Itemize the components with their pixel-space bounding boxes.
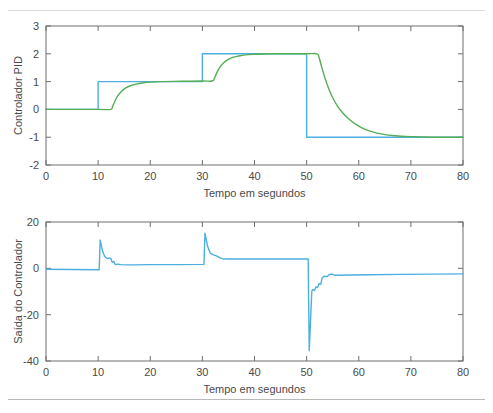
- x-tick-label: 40: [248, 170, 260, 182]
- series-referencia: [46, 54, 463, 137]
- y-tick-label: 0: [33, 262, 39, 274]
- x-tick-label: 20: [144, 366, 156, 378]
- y-axis-title: Controlador PID: [12, 56, 24, 135]
- y-tick-label: -1: [29, 131, 39, 143]
- y-tick-label: 1: [33, 76, 39, 88]
- x-axis-title: Tempo em segundos: [203, 383, 306, 395]
- x-tick-label: 0: [43, 170, 49, 182]
- page-bottom-rule: [8, 399, 485, 400]
- axis-frame: [46, 222, 463, 361]
- x-tick-label: 60: [353, 170, 365, 182]
- x-tick-label: 10: [92, 366, 104, 378]
- x-tick-label: 30: [196, 170, 208, 182]
- y-tick-label: -20: [23, 309, 39, 321]
- y-axis-title: Saída do Controlador: [12, 239, 24, 344]
- axis-frame: [46, 26, 463, 165]
- chart-saida-controlador: 01020304050607080-40-20020Tempo em segun…: [0, 208, 493, 398]
- x-tick-label: 0: [43, 366, 49, 378]
- y-tick-label: 2: [33, 48, 39, 60]
- y-tick-label: -40: [23, 355, 39, 367]
- x-tick-label: 70: [405, 366, 417, 378]
- x-tick-label: 10: [92, 170, 104, 182]
- x-axis-title: Tempo em segundos: [203, 187, 306, 199]
- y-tick-label: -2: [29, 159, 39, 171]
- x-tick-label: 70: [405, 170, 417, 182]
- plot-area-pid: 01020304050607080-2-10123Tempo em segund…: [0, 12, 493, 202]
- y-tick-label: 20: [27, 216, 39, 228]
- x-tick-label: 80: [457, 366, 469, 378]
- x-tick-label: 50: [301, 366, 313, 378]
- x-tick-label: 40: [248, 366, 260, 378]
- x-tick-label: 80: [457, 170, 469, 182]
- x-tick-label: 50: [301, 170, 313, 182]
- series-saida-do-controlador: [46, 233, 463, 351]
- series-resposta: [46, 54, 463, 138]
- plot-area-saida: 01020304050607080-40-20020Tempo em segun…: [0, 208, 493, 398]
- page-top-rule: [8, 10, 485, 11]
- y-tick-label: 0: [33, 103, 39, 115]
- chart-controlador-pid: 01020304050607080-2-10123Tempo em segund…: [0, 12, 493, 202]
- x-tick-label: 60: [353, 366, 365, 378]
- x-tick-label: 20: [144, 170, 156, 182]
- y-tick-label: 3: [33, 20, 39, 32]
- x-tick-label: 30: [196, 366, 208, 378]
